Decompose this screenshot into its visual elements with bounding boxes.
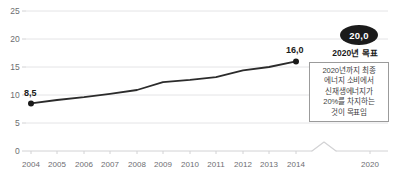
- series-line-actual: [31, 61, 296, 103]
- renewable-energy-share-chart: 25 20 15 10 5 0 2004 2005 2006 2007 2008…: [0, 0, 396, 182]
- data-label-2004: 8,5: [24, 88, 37, 98]
- x-tick-2007: 2007: [97, 160, 123, 169]
- x-tick-2012: 2012: [230, 160, 256, 169]
- x-tick-2009: 2009: [150, 160, 176, 169]
- note-line-3: 신재생에너지가: [312, 87, 386, 97]
- y-tick-0: 0: [0, 147, 20, 156]
- x-tick-2006: 2006: [71, 160, 97, 169]
- x-tick-2010: 2010: [177, 160, 203, 169]
- data-label-2014: 16,0: [286, 45, 304, 55]
- data-point-2014: [293, 58, 299, 64]
- x-tick-2014: 2014: [283, 160, 309, 169]
- x-tick-2011: 2011: [203, 160, 229, 169]
- target-value-badge: 20,0: [340, 25, 378, 45]
- note-line-5: 것이 목표임: [312, 108, 386, 118]
- target-note-callout: 2020년까지 최종 에너지 소비에서 신재생에너지가 20%를 차지하는 것이…: [309, 62, 389, 122]
- x-tick-2008: 2008: [124, 160, 150, 169]
- note-line-1: 2020년까지 최종: [312, 66, 386, 76]
- x-tick-2005: 2005: [44, 160, 70, 169]
- x-tick-2020: 2020: [357, 160, 383, 169]
- y-tick-15: 15: [0, 63, 20, 72]
- note-line-2: 에너지 소비에서: [312, 76, 386, 86]
- y-axis-ticks: [22, 11, 26, 151]
- axis-break-icon: [312, 142, 336, 151]
- x-tick-2013: 2013: [256, 160, 282, 169]
- y-tick-20: 20: [0, 35, 20, 44]
- target-caption-label: 2020년 목표: [316, 48, 394, 58]
- y-tick-5: 5: [0, 119, 20, 128]
- x-tick-2004: 2004: [18, 160, 44, 169]
- y-tick-25: 25: [0, 7, 20, 16]
- note-line-4: 20%를 차지하는: [312, 97, 386, 107]
- y-tick-10: 10: [0, 91, 20, 100]
- data-point-2004: [28, 100, 34, 106]
